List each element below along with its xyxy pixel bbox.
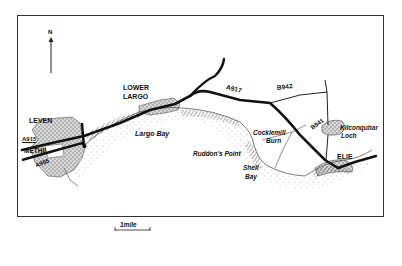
- town-lower: LOWER: [123, 84, 149, 91]
- road-elie-west: [326, 135, 328, 160]
- town-leven: LEVEN: [29, 117, 52, 124]
- north-label: N: [48, 29, 52, 35]
- town-largo: LARGO: [123, 93, 148, 100]
- town-elie: ELIE: [337, 153, 353, 160]
- label-kilconquhar: Kilconquhar: [340, 125, 378, 132]
- road-b942: [270, 92, 327, 103]
- north-arrow-icon: [49, 37, 54, 73]
- scale-label: 1mile: [120, 222, 137, 229]
- town-methil: METHIL: [24, 148, 48, 155]
- label-burn: Burn: [266, 138, 281, 145]
- label-largo-bay: Largo Bay: [135, 130, 169, 137]
- label-cocklemill: Cocklemill: [253, 130, 286, 137]
- road-label-a915: A915: [22, 136, 36, 142]
- label-ruddons-point: Ruddon's Point: [193, 151, 241, 158]
- road-b942-north: [325, 80, 328, 125]
- label-bay: Bay: [245, 174, 257, 181]
- label-loch: Loch: [341, 133, 357, 140]
- label-shell: Shell: [243, 165, 259, 172]
